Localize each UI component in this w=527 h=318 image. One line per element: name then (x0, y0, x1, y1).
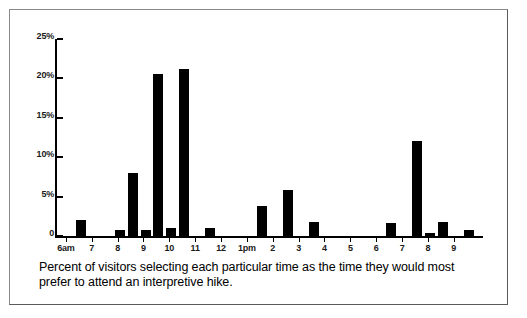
bar (153, 74, 163, 236)
y-axis-tick-label: 10% (37, 149, 54, 159)
bar (128, 173, 138, 236)
x-axis-tick (350, 238, 351, 242)
x-axis-tick (143, 238, 144, 242)
x-axis-tick-label: 7 (89, 243, 94, 253)
x-axis-tick-label: 2 (270, 243, 275, 253)
x-axis-tick-label: 3 (296, 243, 301, 253)
bar (412, 141, 422, 236)
bar (205, 228, 215, 236)
x-axis-tick-label: 4 (322, 243, 327, 253)
bar (309, 222, 319, 236)
chart-plot-area: 05%10%15%20%25% 6am7891011121pm23456789 (46, 30, 486, 248)
x-axis-tick-label: 6 (374, 243, 379, 253)
x-axis-tick (376, 238, 377, 242)
bar (141, 230, 151, 236)
x-axis-tick (402, 238, 403, 242)
y-axis-tick-label: 5% (41, 189, 54, 199)
x-axis-tick (454, 238, 455, 242)
bar (76, 220, 86, 236)
x-axis-tick (428, 238, 429, 242)
x-axis-tick-label: 10 (164, 243, 174, 253)
bar (115, 230, 125, 236)
y-axis-tick-label: 25% (37, 31, 54, 41)
y-axis-tick-label: 0 (49, 228, 54, 238)
bar (425, 233, 435, 236)
x-axis-tick (247, 238, 248, 242)
bar (166, 228, 176, 236)
bar (257, 206, 267, 236)
y-axis-tick-label: 20% (37, 70, 54, 80)
y-axis-tick-label: 15% (37, 110, 54, 120)
x-axis-tick-label: 5 (348, 243, 353, 253)
x-axis-tick (324, 238, 325, 242)
bar (386, 223, 396, 236)
x-axis-tick-label: 8 (115, 243, 120, 253)
x-axis-tick (169, 238, 170, 242)
x-axis-tick (273, 238, 274, 242)
x-axis-tick-label: 9 (141, 243, 146, 253)
x-axis-tick-label: 9 (451, 243, 456, 253)
x-axis-tick (221, 238, 222, 242)
figure-frame: 05%10%15%20%25% 6am7891011121pm23456789 … (9, 9, 508, 305)
x-axis-tick-label: 11 (191, 243, 200, 253)
x-axis-tick (118, 238, 119, 242)
bar-series (55, 39, 483, 236)
x-axis-tick-label: 1pm (238, 243, 256, 253)
bar (438, 222, 448, 236)
x-axis-tick-label: 6am (57, 243, 74, 253)
bar (464, 230, 474, 236)
figure-caption: Percent of visitors selecting each parti… (39, 260, 484, 291)
x-axis-tick-label: 12 (216, 243, 226, 253)
x-axis-tick (66, 238, 67, 242)
x-axis-tick-label: 8 (426, 243, 431, 253)
x-axis-tick (92, 238, 93, 242)
bar (283, 190, 293, 236)
x-axis-tick (299, 238, 300, 242)
x-axis-tick-label: 7 (400, 243, 405, 253)
bar (179, 69, 189, 236)
x-axis-line (55, 236, 483, 238)
x-axis-tick (195, 238, 196, 242)
